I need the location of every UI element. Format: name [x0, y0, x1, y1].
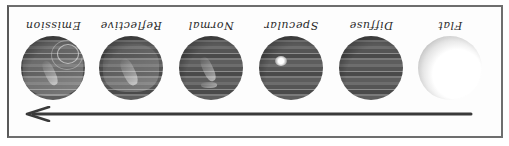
normal-bump-sheen: [201, 82, 217, 88]
flat-sphere: [418, 36, 482, 100]
stage-label: Specular: [251, 19, 331, 32]
stage-label: Normal: [171, 19, 251, 32]
stage-label: Emission: [13, 19, 93, 32]
emission-swirl: [51, 40, 83, 70]
figure-frame: Flat Diffuse Specular Normal: [7, 5, 503, 138]
reflective-sphere: [99, 36, 163, 100]
stage-emission: Emission: [13, 3, 93, 136]
stage-label: Diffuse: [331, 19, 411, 32]
specular-highlight: [275, 56, 287, 66]
stage-label: Reflective: [91, 19, 171, 32]
normal-sphere: [179, 36, 243, 100]
rotated-figure: Flat Diffuse Specular Normal: [0, 0, 509, 146]
stage-flat: Flat: [410, 3, 490, 136]
normal-bump-sheen: [198, 55, 218, 83]
stage-label: Flat: [410, 19, 490, 32]
stage-diffuse: Diffuse: [331, 3, 411, 136]
stage-specular: Specular: [251, 3, 331, 136]
diffuse-sphere: [339, 36, 403, 100]
stage-reflective: Reflective: [91, 3, 171, 136]
specular-sphere: [259, 36, 323, 100]
stage-normal: Normal: [171, 3, 251, 136]
emission-sphere: [21, 36, 85, 100]
